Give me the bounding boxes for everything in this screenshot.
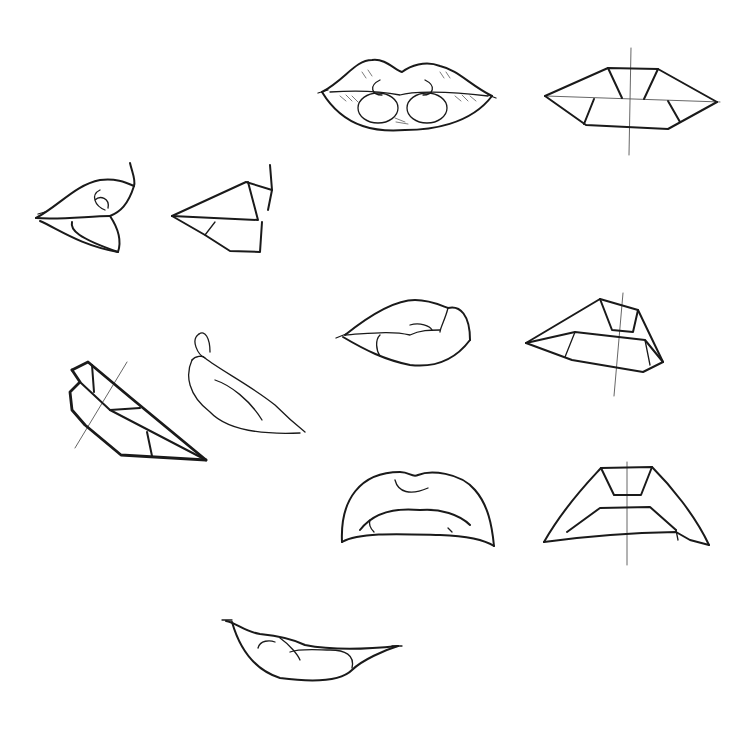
- three-quarter-lips-planes: [526, 293, 663, 396]
- low-angle-lips-planes: [544, 462, 709, 565]
- side-lips-planes: [172, 165, 272, 252]
- lips-sketch-sheet: [0, 0, 745, 729]
- three-quarter-lips-rendered: [336, 300, 470, 366]
- tilted-profile-rendered: [189, 333, 305, 433]
- tilted-profile-planes: [70, 362, 206, 460]
- side-lips-rendered: [36, 163, 135, 252]
- front-lips-rendered: [318, 60, 496, 131]
- front-lips-planes: [545, 48, 720, 155]
- smile-lips-rendered: [222, 620, 402, 680]
- low-angle-lips-rendered: [342, 472, 494, 546]
